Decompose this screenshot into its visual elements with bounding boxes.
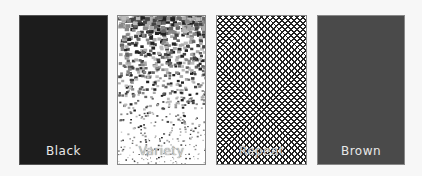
swatch-label: Brown xyxy=(318,144,404,158)
swatch-label: Variety xyxy=(118,144,205,158)
swatch-repeat[interactable]: Repeat xyxy=(216,15,307,165)
swatch-black[interactable]: Black xyxy=(19,15,108,165)
swatch-label: Black xyxy=(20,144,107,158)
speckle-pattern-icon xyxy=(118,16,206,165)
swatch-variety[interactable]: Variety xyxy=(117,15,206,165)
swatch-label: Repeat xyxy=(217,144,306,158)
swatch-brown[interactable]: Brown xyxy=(317,15,405,165)
